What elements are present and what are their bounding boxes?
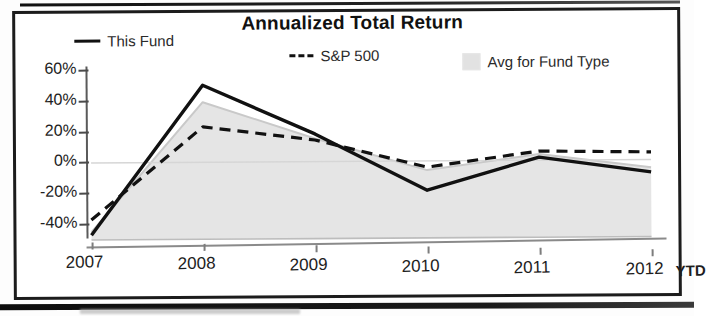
scan-artifact-top-rule xyxy=(20,1,680,7)
chart-container: Annualized Total Return This Fund S&P 50… xyxy=(12,7,682,300)
y-axis-tick-label: 20% xyxy=(19,121,77,139)
x-axis-tick xyxy=(428,246,430,253)
x-axis-tick-label: 2007 xyxy=(65,252,103,273)
y-axis-tick-label: -40% xyxy=(19,214,77,232)
y-axis-tick xyxy=(79,162,89,164)
x-axis-tick xyxy=(540,247,542,254)
x-axis-tick-label: 2009 xyxy=(289,255,327,276)
x-axis-tick-label: 2012 xyxy=(626,258,664,279)
y-axis-tick xyxy=(79,100,89,102)
x-axis-tick-label: 2008 xyxy=(177,253,215,274)
plot-area xyxy=(12,7,682,300)
y-axis-tick xyxy=(78,70,88,72)
x-axis-ytd-label: YTD xyxy=(676,261,706,279)
y-axis-tick-label: 40% xyxy=(19,90,77,108)
y-axis-tick-label: 0% xyxy=(19,152,77,170)
scan-artifact-smudge xyxy=(80,309,300,314)
y-axis-tick xyxy=(79,131,89,133)
x-axis-tick-label: 2011 xyxy=(514,257,551,278)
x-axis-tick-label: 2010 xyxy=(401,256,439,277)
x-axis-tick xyxy=(652,249,654,256)
x-axis-tick xyxy=(204,244,206,251)
y-axis-tick-label: 60% xyxy=(18,60,76,78)
x-axis-tick xyxy=(92,243,94,250)
y-axis-tick xyxy=(79,224,89,226)
y-axis-tick xyxy=(79,193,89,195)
x-axis-tick xyxy=(316,245,318,252)
y-axis-tick-label: -20% xyxy=(19,183,77,201)
